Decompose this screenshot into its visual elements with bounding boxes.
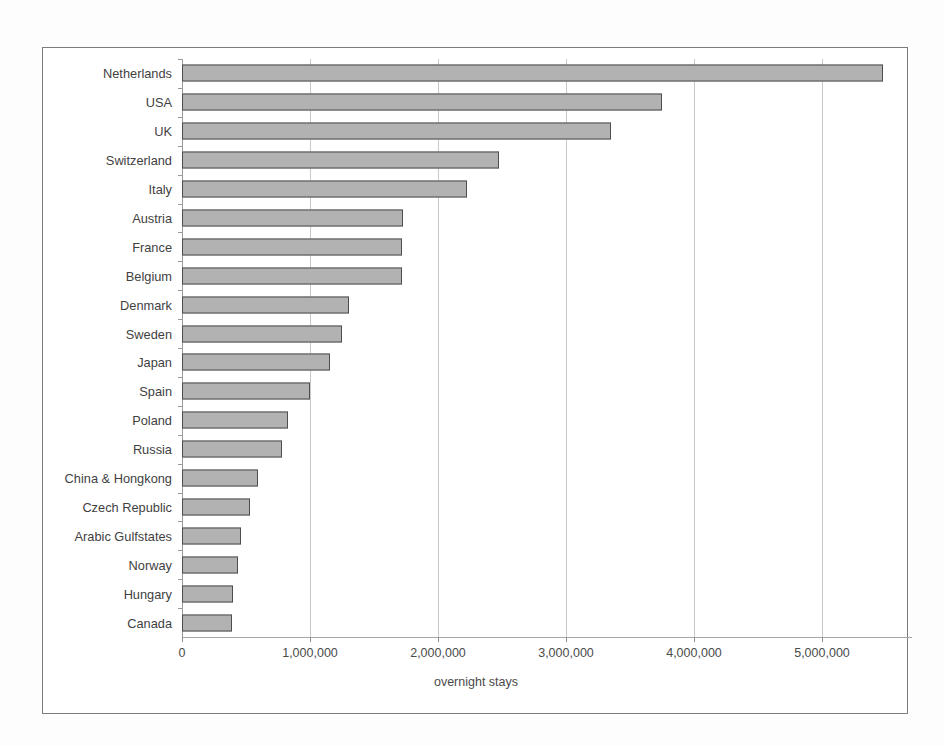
category-label: Japan [0, 355, 180, 370]
y-axis-tick [178, 550, 182, 551]
category-label: Switzerland [0, 153, 180, 168]
y-axis-tick [178, 59, 182, 60]
category-label: Netherlands [0, 66, 180, 81]
y-axis-tick [178, 88, 182, 89]
x-axis-tick-label: 5,000,000 [794, 646, 850, 660]
chart-row: France [43, 232, 907, 261]
y-axis-tick [178, 406, 182, 407]
y-axis-tick [178, 319, 182, 320]
chart-row: Switzerland [43, 146, 907, 175]
y-axis-tick [178, 377, 182, 378]
category-label: Italy [0, 182, 180, 197]
category-label: Czech Republic [0, 499, 180, 514]
x-axis-line [182, 637, 912, 638]
bar[interactable] [182, 238, 402, 255]
y-axis-tick [178, 261, 182, 262]
chart-row: Austria [43, 204, 907, 233]
bar[interactable] [182, 152, 499, 169]
y-axis-tick [178, 117, 182, 118]
chart-row: Netherlands [43, 59, 907, 88]
bar[interactable] [182, 65, 883, 82]
y-axis-tick [178, 521, 182, 522]
chart-row: Italy [43, 175, 907, 204]
category-label: Canada [0, 615, 180, 630]
y-axis-tick [178, 204, 182, 205]
bar[interactable] [182, 614, 232, 631]
x-axis-tick-label: 0 [179, 646, 186, 660]
x-axis-tick [822, 637, 823, 642]
chart-row: Belgium [43, 261, 907, 290]
chart-row: Canada [43, 608, 907, 637]
category-label: China & Hongkong [0, 471, 180, 486]
bar[interactable] [182, 527, 241, 544]
bar[interactable] [182, 470, 258, 487]
x-axis-tick [182, 637, 183, 642]
bar[interactable] [182, 354, 330, 371]
chart-row: Denmark [43, 290, 907, 319]
bar[interactable] [182, 412, 288, 429]
chart-row: Poland [43, 406, 907, 435]
bar[interactable] [182, 296, 349, 313]
figure-page: overnight stays 01,000,0002,000,0003,000… [0, 0, 944, 746]
y-axis-tick [178, 608, 182, 609]
y-axis-tick [178, 348, 182, 349]
chart-row: Norway [43, 550, 907, 579]
y-axis-tick [178, 579, 182, 580]
category-label: UK [0, 124, 180, 139]
y-axis-tick [178, 435, 182, 436]
y-axis-tick [178, 290, 182, 291]
bar[interactable] [182, 556, 238, 573]
category-label: Poland [0, 413, 180, 428]
bar[interactable] [182, 325, 342, 342]
chart-row: USA [43, 88, 907, 117]
bar[interactable] [182, 123, 611, 140]
chart-row: Spain [43, 377, 907, 406]
chart-row: China & Hongkong [43, 464, 907, 493]
bar[interactable] [182, 267, 402, 284]
x-axis-title: overnight stays [43, 675, 909, 689]
category-label: Arabic Gulfstates [0, 528, 180, 543]
x-axis-tick [694, 637, 695, 642]
category-label: Denmark [0, 297, 180, 312]
y-axis-tick [178, 232, 182, 233]
chart-row: Sweden [43, 319, 907, 348]
category-label: Russia [0, 442, 180, 457]
category-label: Sweden [0, 326, 180, 341]
y-axis-tick [178, 146, 182, 147]
category-label: Belgium [0, 268, 180, 283]
category-label: France [0, 239, 180, 254]
y-axis-tick [178, 493, 182, 494]
chart-row: Russia [43, 435, 907, 464]
category-label: Spain [0, 384, 180, 399]
chart-frame: overnight stays 01,000,0002,000,0003,000… [42, 47, 908, 714]
bar[interactable] [182, 585, 233, 602]
category-label: Austria [0, 210, 180, 225]
y-axis-tick [178, 175, 182, 176]
x-axis-tick-label: 2,000,000 [410, 646, 466, 660]
bar[interactable] [182, 383, 310, 400]
chart-row: UK [43, 117, 907, 146]
bar[interactable] [182, 209, 403, 226]
chart-row: Japan [43, 348, 907, 377]
bar[interactable] [182, 498, 250, 515]
category-label: USA [0, 95, 180, 110]
chart-row: Arabic Gulfstates [43, 521, 907, 550]
chart-row: Hungary [43, 579, 907, 608]
chart-row: Czech Republic [43, 493, 907, 522]
bar[interactable] [182, 181, 467, 198]
category-label: Hungary [0, 586, 180, 601]
x-axis-tick-label: 3,000,000 [538, 646, 594, 660]
x-axis-tick-label: 4,000,000 [666, 646, 722, 660]
y-axis-tick [178, 464, 182, 465]
bar[interactable] [182, 441, 282, 458]
x-axis-tick [566, 637, 567, 642]
bar[interactable] [182, 94, 662, 111]
x-axis-tick-label: 1,000,000 [282, 646, 338, 660]
category-label: Norway [0, 557, 180, 572]
x-axis-tick [310, 637, 311, 642]
x-axis-tick [438, 637, 439, 642]
